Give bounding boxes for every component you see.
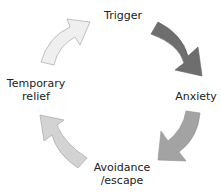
arrow-anxiety-to-avoidance bbox=[158, 111, 200, 161]
node-anxiety-label: Anxiety bbox=[172, 90, 220, 103]
node-avoidance-line-1: Avoidance bbox=[90, 161, 154, 174]
node-relief-line-1: Temporary bbox=[2, 77, 70, 90]
arrow-relief-to-trigger bbox=[41, 19, 90, 65]
node-trigger-label: Trigger bbox=[100, 9, 146, 22]
node-relief-label: Temporary relief bbox=[2, 77, 70, 103]
node-avoidance-label: Avoidance /escape bbox=[90, 161, 154, 187]
node-relief-line-2: relief bbox=[2, 90, 70, 103]
arrow-trigger-to-anxiety bbox=[151, 22, 202, 76]
arrow-avoidance-to-relief bbox=[40, 115, 87, 168]
node-avoidance-line-2: /escape bbox=[90, 174, 154, 187]
